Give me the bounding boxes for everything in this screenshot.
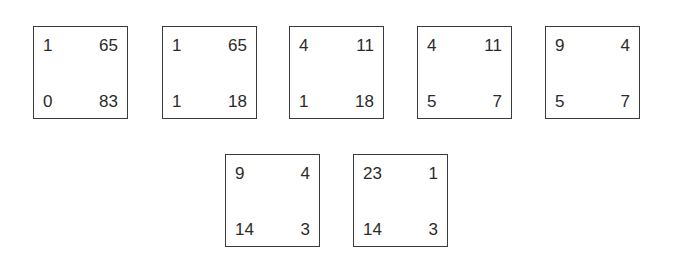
matrix-cell-bottom-left: 14: [363, 221, 382, 238]
matrix-3: 4 11 1 18: [289, 26, 384, 119]
matrix-cell-top-left: 23: [363, 165, 382, 182]
matrix-cell-bottom-left: 1: [299, 93, 308, 110]
matrix-cell-bottom-right: 83: [99, 93, 118, 110]
matrix-1: 1 65 0 83: [33, 26, 128, 119]
matrix-5: 9 4 5 7: [545, 26, 640, 119]
matrix-cell-top-right: 4: [301, 165, 310, 182]
matrix-cell-bottom-left: 0: [43, 93, 52, 110]
matrix-cell-bottom-left: 14: [235, 221, 254, 238]
matrix-cell-top-right: 11: [484, 37, 502, 54]
matrix-cell-top-right: 65: [228, 37, 247, 54]
matrix-cell-bottom-left: 5: [427, 93, 436, 110]
matrix-cell-bottom-right: 18: [228, 93, 247, 110]
matrix-cell-bottom-right: 18: [355, 93, 374, 110]
matrix-cell-top-right: 4: [621, 37, 630, 54]
matrix-cell-top-left: 4: [299, 37, 308, 54]
matrix-4: 4 11 5 7: [417, 26, 512, 119]
matrix-7: 23 1 14 3: [353, 154, 448, 247]
matrix-cell-top-left: 9: [555, 37, 564, 54]
matrix-cell-top-right: 1: [429, 165, 438, 182]
matrix-cell-top-left: 4: [427, 37, 436, 54]
matrix-cell-top-right: 11: [356, 37, 374, 54]
matrix-cell-bottom-right: 7: [621, 93, 630, 110]
matrix-cell-bottom-right: 3: [301, 221, 310, 238]
matrix-cell-top-left: 1: [172, 37, 181, 54]
matrix-cell-top-left: 9: [235, 165, 244, 182]
matrix-cell-bottom-right: 7: [493, 93, 502, 110]
matrix-2: 1 65 1 18: [162, 26, 257, 119]
matrix-cell-top-left: 1: [43, 37, 52, 54]
matrix-cell-top-right: 65: [99, 37, 118, 54]
matrix-cell-bottom-left: 5: [555, 93, 564, 110]
matrix-6: 9 4 14 3: [225, 154, 320, 247]
matrix-cell-bottom-left: 1: [172, 93, 181, 110]
matrix-cell-bottom-right: 3: [429, 221, 438, 238]
